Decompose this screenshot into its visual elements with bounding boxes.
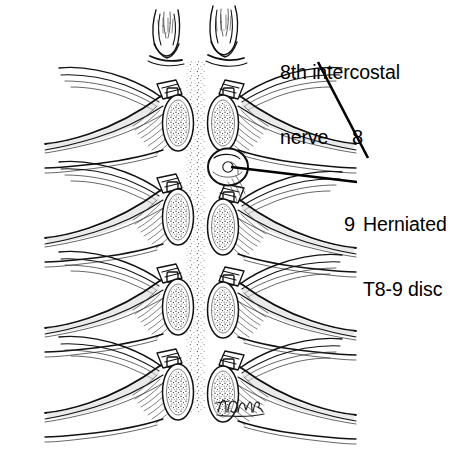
label-level-9: 9 — [344, 213, 355, 235]
left-segment-1 — [45, 67, 194, 173]
label-nerve-line2: nerve — [280, 127, 400, 149]
label-8th-intercostal-nerve: 8th intercostal nerve — [280, 18, 400, 193]
label-herniated-disc: Herniated T8-9 disc — [363, 170, 447, 345]
left-vertebral-column — [45, 67, 194, 442]
label-herniated-line1: Herniated — [363, 214, 447, 236]
label-herniated-line2: T8-9 disc — [363, 279, 447, 301]
spinous-process-right — [206, 6, 247, 66]
label-nerve-line1: 8th intercostal — [280, 62, 400, 84]
label-level-8: 8 — [352, 126, 363, 148]
spinous-process-left — [148, 10, 184, 66]
illustration-root: 8th intercostal nerve Herniated T8-9 dis… — [0, 0, 466, 451]
left-segment-4 — [45, 336, 194, 442]
left-segment-3 — [45, 251, 194, 357]
